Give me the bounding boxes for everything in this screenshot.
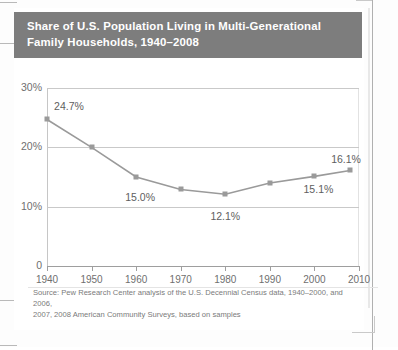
x-axis-line — [47, 266, 359, 267]
page-edge-shadow-right — [368, 8, 370, 308]
data-point-1940 — [45, 117, 50, 122]
data-point-2000 — [312, 174, 317, 179]
data-point-1950 — [89, 145, 94, 150]
x-tick-label-1990: 1990 — [259, 274, 281, 285]
x-tick-1980 — [225, 266, 226, 271]
y-tick-label-20: 20% — [21, 140, 42, 152]
x-tick-2010 — [359, 266, 360, 271]
data-point-1970 — [178, 187, 183, 192]
x-tick-1960 — [136, 266, 137, 271]
data-label-1960: 15.0% — [125, 191, 155, 203]
x-tick-1990 — [270, 266, 271, 271]
x-tick-label-1960: 1960 — [125, 274, 147, 285]
chart-plot-area: 010%20%30% 19401950196019701980199020002… — [47, 88, 359, 266]
chart-title-line-2: Family Households, 1940–2008 — [27, 34, 350, 50]
chart-title-banner: Share of U.S. Population Living in Multi… — [14, 12, 362, 58]
data-point-2008 — [348, 168, 353, 173]
data-point-1990 — [267, 180, 272, 185]
data-label-2000: 15.1% — [304, 183, 334, 195]
page-edge-right — [372, 0, 398, 350]
chart-title-line-1: Share of U.S. Population Living in Multi… — [27, 18, 350, 34]
source-line-1: Source: Pew Research Center analysis of … — [33, 287, 345, 309]
x-tick-label-2010: 2010 — [348, 274, 370, 285]
data-point-1980 — [223, 192, 228, 197]
source-note: Source: Pew Research Center analysis of … — [33, 287, 345, 320]
y-tick-label-0: 0 — [36, 259, 42, 271]
chart-card: Share of U.S. Population Living in Multi… — [14, 8, 364, 330]
x-tick-label-1980: 1980 — [214, 274, 236, 285]
data-label-1940: 24.7% — [54, 100, 84, 112]
y-tick-label-30: 30% — [21, 81, 42, 93]
x-tick-label-1940: 1940 — [36, 274, 58, 285]
x-tick-1940 — [47, 266, 48, 271]
data-label-2008: 16.1% — [331, 153, 361, 165]
x-tick-1950 — [92, 266, 93, 271]
x-tick-label-1950: 1950 — [80, 274, 102, 285]
source-line-2: 2007, 2008 American Community Surveys, b… — [33, 309, 345, 320]
data-label-1980: 12.1% — [210, 210, 240, 222]
data-point-1960 — [134, 175, 139, 180]
x-tick-label-2000: 2000 — [303, 274, 325, 285]
x-tick-label-1970: 1970 — [170, 274, 192, 285]
x-tick-2000 — [314, 266, 315, 271]
y-tick-label-10: 10% — [21, 200, 42, 212]
x-tick-1970 — [181, 266, 182, 271]
